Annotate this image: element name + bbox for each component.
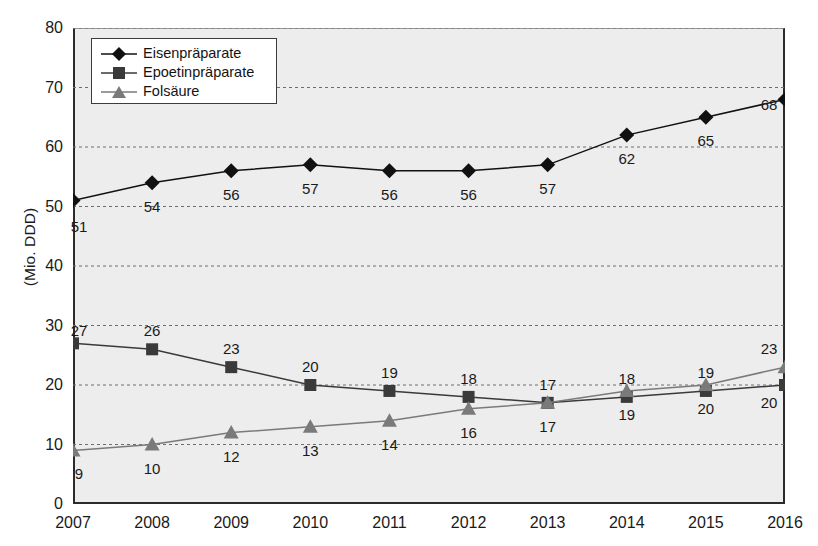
legend-item-epoetinpraeparate: Epoetinpräparate [92, 63, 276, 82]
data-point-label: 9 [75, 466, 83, 481]
data-point-label: 17 [539, 419, 556, 434]
data-point-label: 26 [144, 323, 161, 338]
data-point-label: 18 [618, 371, 635, 386]
data-point-label: 51 [71, 219, 88, 234]
triangle-marker-icon [99, 83, 139, 101]
x-axis-tick-label: 2010 [270, 515, 350, 531]
y-axis-tick-label: 50 [11, 199, 63, 215]
x-axis-tick-label: 2016 [745, 515, 818, 531]
y-axis-tick-label: 60 [11, 139, 63, 155]
data-point-label: 56 [381, 187, 398, 202]
data-point-label: 62 [618, 151, 635, 166]
data-point-label: 23 [223, 341, 240, 356]
data-point-label: 57 [539, 181, 556, 196]
data-point-label: 19 [381, 365, 398, 380]
diamond-marker-icon [99, 45, 139, 63]
data-point-label: 13 [302, 443, 319, 458]
data-point-label: 23 [761, 341, 778, 356]
y-axis-tick-label: 30 [11, 318, 63, 334]
data-point-label: 20 [761, 395, 778, 410]
y-axis-tick-label: 20 [11, 377, 63, 393]
data-point-label: 17 [539, 377, 556, 392]
data-point-label: 10 [144, 461, 161, 476]
data-point-label: 56 [460, 187, 477, 202]
data-point-label: 18 [460, 371, 477, 386]
data-point-label: 56 [223, 187, 240, 202]
data-point-label: 14 [381, 437, 398, 452]
x-axis-tick-label: 2008 [112, 515, 192, 531]
y-axis-tick-label: 0 [11, 496, 63, 512]
data-point-label: 19 [698, 365, 715, 380]
data-point-label: 19 [618, 407, 635, 422]
legend-item-folsaeure: Folsäure [92, 82, 276, 101]
legend-item-eisenpraeparate: Eisenpräparate [92, 44, 276, 63]
y-axis-tick-label: 70 [11, 80, 63, 96]
data-point-label: 20 [302, 359, 319, 374]
x-axis-tick-label: 2007 [33, 515, 113, 531]
data-point-label: 57 [302, 181, 319, 196]
y-axis-tick-label: 40 [11, 258, 63, 274]
line-chart: (Mio. DDD) 01020304050607080 20072008200… [0, 0, 818, 546]
y-axis-tick-label: 80 [11, 20, 63, 36]
y-axis-tick-label: 10 [11, 437, 63, 453]
legend-label: Epoetinpräparate [143, 65, 254, 80]
data-point-label: 12 [223, 449, 240, 464]
x-axis-tick-label: 2015 [666, 515, 746, 531]
x-axis-tick-label: 2012 [429, 515, 509, 531]
data-point-label: 20 [698, 401, 715, 416]
x-axis-tick-label: 2013 [508, 515, 588, 531]
legend: Eisenpräparate Epoetinpräparate Folsäure [91, 38, 277, 104]
data-point-label: 68 [761, 97, 778, 112]
x-axis-tick-label: 2014 [587, 515, 667, 531]
data-point-label: 54 [144, 199, 161, 214]
data-point-label: 16 [460, 425, 477, 440]
x-axis-tick-label: 2009 [191, 515, 271, 531]
legend-label: Folsäure [143, 84, 199, 99]
data-point-label: 65 [698, 133, 715, 148]
x-axis-tick-label: 2011 [349, 515, 429, 531]
square-marker-icon [99, 64, 139, 82]
legend-label: Eisenpräparate [143, 46, 241, 61]
data-point-label: 27 [71, 323, 88, 338]
